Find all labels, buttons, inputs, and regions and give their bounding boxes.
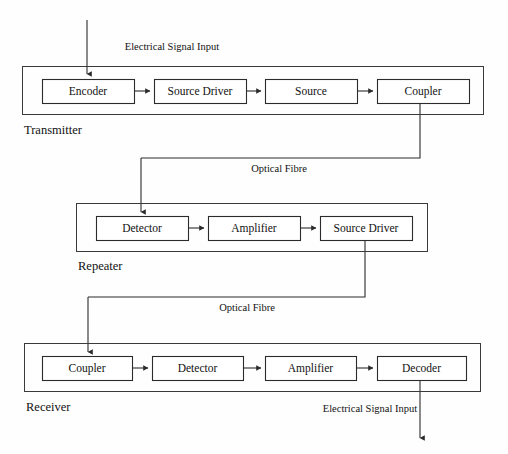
node-source[interactable]: Source	[266, 80, 358, 104]
node-detector[interactable]: Detector	[97, 217, 189, 241]
node-encoder[interactable]: Encoder	[43, 80, 135, 104]
node-label-amplifier: Amplifier	[231, 222, 277, 235]
node-detector2[interactable]: Detector	[153, 357, 244, 381]
node-label-amplifier2: Amplifier	[288, 362, 334, 375]
stage-repeater: DetectorAmplifierSource DriverRepeater	[77, 204, 428, 273]
stage-label-transmitter: Transmitter	[24, 123, 83, 137]
node-amplifier2[interactable]: Amplifier	[266, 357, 357, 381]
node-label-coupler: Coupler	[404, 85, 441, 98]
edge-label-electrical-input-top: Electrical Signal Input	[125, 41, 220, 52]
node-label-source: Source	[295, 85, 327, 97]
edge-label-optical-fibre-2: Optical Fibre	[219, 302, 275, 313]
connector-coupler-to-fibre-1	[141, 103, 420, 158]
node-label-encoder: Encoder	[69, 85, 107, 97]
node-label-detector2: Detector	[178, 362, 218, 374]
node-label-coupler2: Coupler	[68, 362, 105, 375]
node-coupler2[interactable]: Coupler	[43, 357, 133, 381]
edge-label-electrical-output-bottom: Electrical Signal Input	[323, 403, 418, 414]
node-label-detector: Detector	[122, 222, 162, 234]
node-source-driver[interactable]: Source Driver	[155, 80, 247, 104]
node-source-driver2[interactable]: Source Driver	[321, 217, 413, 241]
stage-label-receiver: Receiver	[26, 400, 71, 414]
edge-label-optical-fibre-1: Optical Fibre	[251, 163, 307, 174]
stage-label-repeater: Repeater	[78, 259, 123, 273]
node-label-decoder: Decoder	[402, 362, 441, 374]
node-amplifier[interactable]: Amplifier	[209, 217, 301, 241]
node-label-source-driver2: Source Driver	[334, 222, 399, 234]
stage-transmitter: EncoderSource DriverSourceCouplerTransmi…	[23, 67, 484, 137]
optical-fibre-system-diagram: EncoderSource DriverSourceCouplerTransmi…	[0, 0, 508, 454]
diagram-canvas: EncoderSource DriverSourceCouplerTransmi…	[0, 0, 508, 454]
node-label-source-driver: Source Driver	[168, 85, 233, 97]
stages-layer: EncoderSource DriverSourceCouplerTransmi…	[23, 67, 484, 414]
node-coupler[interactable]: Coupler	[378, 80, 470, 104]
node-decoder[interactable]: Decoder	[378, 357, 467, 381]
connector-source-driver2-to-fibre-2	[88, 240, 365, 297]
